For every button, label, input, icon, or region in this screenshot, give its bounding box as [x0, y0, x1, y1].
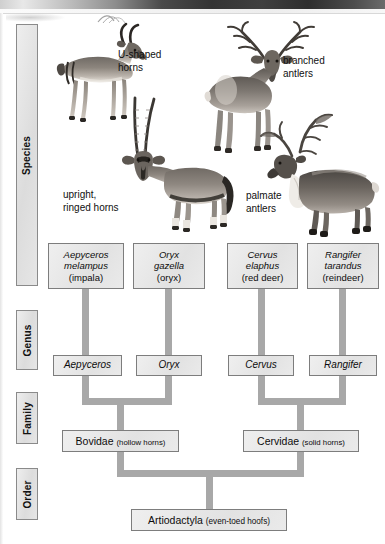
rank-label-family: Family — [16, 392, 38, 444]
species-scientific-line1: Cervus — [242, 249, 284, 261]
annotation-u-shaped-horns: U-shaped horns — [118, 48, 161, 74]
rank-label-order-text: Order — [22, 480, 33, 508]
genus-box-oryx: Oryx — [136, 355, 202, 376]
genus-box-aepyceros: Aepyceros — [53, 355, 122, 376]
species-common-name: (red deer) — [242, 272, 284, 284]
species-box-cervus-elaphus: Cervus elaphus (red deer) — [227, 243, 298, 289]
order-name: Artiodactyla — [148, 514, 203, 526]
annotation-upright-ringed-horns: upright, ringed horns — [63, 188, 119, 214]
rank-label-order: Order — [16, 468, 38, 520]
family-note: (hollow horns) — [116, 438, 165, 447]
order-note: (even-toed hoofs) — [206, 517, 270, 526]
rank-label-species-text: Species — [22, 135, 33, 174]
family-name: Cervidae — [257, 435, 299, 447]
family-box-cervidae: Cervidae (solid horns) — [243, 430, 359, 452]
genus-label: Cervus — [243, 359, 279, 371]
annotation-palmate-antlers: palmate antlers — [246, 189, 282, 215]
family-box-bovidae: Bovidae (hollow horns) — [62, 430, 179, 452]
rank-label-genus-text: Genus — [22, 324, 33, 356]
species-box-oryx-gazella: Oryx gazella (oryx) — [133, 243, 205, 289]
species-scientific-line1: Aepyceros — [64, 249, 109, 261]
family-note: (solid horns) — [302, 438, 345, 447]
genus-label: Rangifer — [322, 359, 364, 371]
rank-label-genus: Genus — [16, 310, 38, 370]
species-common-name: (oryx) — [154, 272, 184, 284]
species-scientific-line1: Oryx — [154, 249, 184, 261]
oryx-illustration — [104, 96, 249, 236]
figure-canvas: Species Genus Family Order — [0, 0, 385, 544]
species-common-name: (impala) — [64, 272, 109, 284]
species-scientific-line2: tarandus — [322, 260, 363, 272]
species-box-rangifer-tarandus: Rangifer tarandus (reindeer) — [307, 243, 379, 289]
annotation-branched-antlers: branched antlers — [283, 54, 325, 80]
order-box-artiodactyla: Artiodactyla (even-toed hoofs) — [131, 509, 287, 531]
genus-box-rangifer: Rangifer — [309, 355, 377, 376]
genus-label: Oryx — [156, 359, 181, 371]
genus-label: Aepyceros — [62, 359, 113, 371]
species-box-aepyceros-melampus: Aepyceros melampus (impala) — [48, 243, 124, 289]
species-scientific-line2: melampus — [64, 260, 109, 272]
species-scientific-line2: gazella — [154, 260, 184, 272]
species-scientific-line2: elaphus — [242, 260, 284, 272]
reindeer-illustration — [252, 112, 384, 240]
rank-label-family-text: Family — [22, 402, 33, 435]
genus-box-cervus: Cervus — [228, 355, 294, 376]
rank-label-species: Species — [16, 24, 38, 286]
family-name: Bovidae — [76, 435, 114, 447]
species-common-name: (reindeer) — [322, 272, 363, 284]
species-scientific-line1: Rangifer — [322, 249, 363, 261]
